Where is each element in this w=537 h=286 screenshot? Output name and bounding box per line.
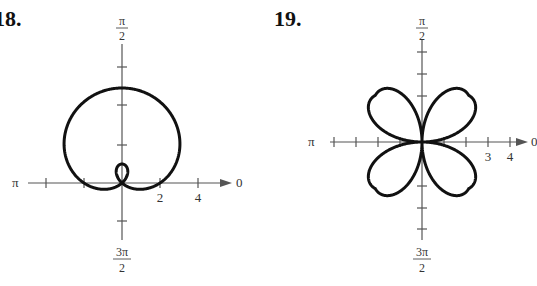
figure-18: 18. π 2 π 0 2 4 3π 2 <box>0 0 268 286</box>
label-3pi-over-2-num: 3π <box>116 245 128 259</box>
label-3pi-over-2-num: 3π <box>416 245 428 259</box>
arrow-head-icon <box>516 138 528 146</box>
arrow-head-icon <box>220 179 232 187</box>
label-zero: 0 <box>531 134 537 149</box>
label-pi-over-2-den: 2 <box>419 29 425 43</box>
tick-label-4: 4 <box>507 149 514 164</box>
polar-plot-19: π 2 π 0 3 4 3π 2 <box>268 0 537 286</box>
tick-label-3: 3 <box>485 149 492 164</box>
label-3pi-over-2-den: 2 <box>419 261 425 275</box>
label-pi: π <box>308 134 315 149</box>
label-pi-over-2-num: π <box>419 14 425 28</box>
figure-19: 19. π 2 π 0 3 4 3π 2 <box>268 0 537 286</box>
tick-label-4: 4 <box>195 190 202 205</box>
label-3pi-over-2-den: 2 <box>119 261 125 275</box>
tick-label-2: 2 <box>157 190 164 205</box>
polar-plot-18: π 2 π 0 2 4 3π 2 <box>0 0 268 286</box>
label-zero: 0 <box>236 175 243 190</box>
label-pi-over-2-num: π <box>119 14 125 28</box>
label-pi-over-2-den: 2 <box>119 29 125 43</box>
label-pi: π <box>12 175 19 190</box>
